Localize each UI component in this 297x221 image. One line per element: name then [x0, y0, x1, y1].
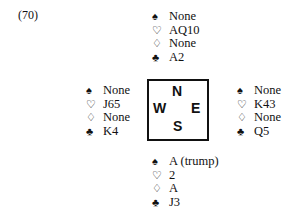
compass-south: S	[173, 118, 182, 134]
east-hearts: K43	[254, 98, 276, 112]
south-spades-row: ♠A (trump)	[152, 155, 219, 169]
diamond-icon: ♢	[237, 111, 254, 125]
west-spades: None	[103, 84, 130, 98]
diamond-icon: ♢	[152, 182, 169, 196]
north-clubs: A2	[169, 51, 184, 65]
west-diamonds-row: ♢None	[86, 111, 130, 125]
north-hearts-row: ♡AQ10	[152, 24, 200, 38]
north-diamonds-row: ♢None	[152, 37, 200, 51]
west-hand: ♠None ♡J65 ♢None ♣K4	[86, 84, 130, 138]
east-clubs-row: ♣Q5	[237, 125, 281, 139]
problem-number: (70)	[18, 8, 38, 23]
diamond-icon: ♢	[86, 111, 103, 125]
west-hearts: J65	[103, 98, 120, 112]
north-clubs-row: ♣A2	[152, 51, 200, 65]
heart-icon: ♡	[152, 169, 169, 183]
heart-icon: ♡	[152, 24, 169, 38]
heart-icon: ♡	[237, 98, 254, 112]
north-spades: None	[169, 10, 196, 24]
west-diamonds: None	[103, 111, 130, 125]
west-spades-row: ♠None	[86, 84, 130, 98]
south-diamonds-row: ♢A	[152, 182, 219, 196]
east-diamonds-row: ♢None	[237, 111, 281, 125]
west-clubs: K4	[103, 125, 118, 139]
west-clubs-row: ♣K4	[86, 125, 130, 139]
club-icon: ♣	[152, 51, 169, 65]
north-hearts: AQ10	[169, 24, 200, 38]
west-hearts-row: ♡J65	[86, 98, 130, 112]
compass-west: W	[153, 100, 166, 116]
club-icon: ♣	[86, 125, 103, 139]
east-hearts-row: ♡K43	[237, 98, 281, 112]
east-clubs: Q5	[254, 125, 269, 139]
south-diamonds: A	[169, 182, 178, 196]
north-spades-row: ♠None	[152, 10, 200, 24]
north-hand: ♠None ♡AQ10 ♢None ♣A2	[152, 10, 200, 64]
east-spades-row: ♠None	[237, 84, 281, 98]
spade-icon: ♠	[152, 10, 169, 24]
east-hand: ♠None ♡K43 ♢None ♣Q5	[237, 84, 281, 138]
spade-icon: ♠	[237, 84, 254, 98]
south-clubs-row: ♣J3	[152, 196, 219, 210]
compass-north: N	[172, 83, 182, 99]
south-hearts: 2	[169, 169, 175, 183]
south-hand: ♠A (trump) ♡2 ♢A ♣J3	[152, 155, 219, 209]
compass-box: N W E S	[147, 79, 209, 141]
east-diamonds: None	[254, 111, 281, 125]
club-icon: ♣	[152, 196, 169, 210]
north-diamonds: None	[169, 37, 196, 51]
south-clubs: J3	[169, 196, 180, 210]
diamond-icon: ♢	[152, 37, 169, 51]
compass-east: E	[191, 100, 200, 116]
heart-icon: ♡	[86, 98, 103, 112]
south-spades: A (trump)	[169, 155, 219, 169]
spade-icon: ♠	[152, 155, 169, 169]
club-icon: ♣	[237, 125, 254, 139]
east-spades: None	[254, 84, 281, 98]
south-hearts-row: ♡2	[152, 169, 219, 183]
spade-icon: ♠	[86, 84, 103, 98]
